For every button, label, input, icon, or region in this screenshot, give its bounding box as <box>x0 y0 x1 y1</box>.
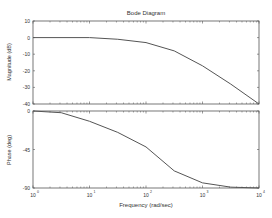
svg-text:3: 3 <box>207 190 209 194</box>
bode-diagram: Bode Diagram 100-10-20-30-40 Magnitude (… <box>0 0 272 218</box>
svg-text:-20: -20 <box>23 68 30 74</box>
svg-text:10: 10 <box>30 192 36 198</box>
svg-text:0: 0 <box>37 190 39 194</box>
phase-yticks: 0-45-90 <box>23 108 259 191</box>
svg-text:0: 0 <box>27 108 30 114</box>
svg-text:-30: -30 <box>23 84 30 90</box>
svg-text:10: 10 <box>87 192 93 198</box>
magnitude-yticks: 100-10-20-30-40 <box>23 18 259 107</box>
svg-text:-90: -90 <box>23 185 30 191</box>
magnitude-axes <box>33 21 259 104</box>
phase-ylabel: Phase (deg) <box>6 135 12 165</box>
svg-text:2: 2 <box>150 190 152 194</box>
svg-text:10: 10 <box>200 192 206 198</box>
svg-text:1: 1 <box>94 190 96 194</box>
magnitude-curve <box>33 38 259 104</box>
frequency-xlabel: Frequency (rad/sec) <box>119 202 173 208</box>
svg-text:10: 10 <box>256 192 262 198</box>
phase-curve <box>33 111 259 188</box>
svg-text:-10: -10 <box>23 51 30 57</box>
phase-axes <box>33 111 259 188</box>
chart-title: Bode Diagram <box>127 10 165 16</box>
svg-text:-45: -45 <box>23 147 30 153</box>
frequency-xticks: 100101102103104 <box>30 21 265 198</box>
svg-text:10: 10 <box>143 192 149 198</box>
svg-text:-40: -40 <box>23 101 30 107</box>
svg-text:0: 0 <box>27 35 30 41</box>
svg-text:4: 4 <box>263 190 265 194</box>
svg-text:10: 10 <box>24 18 30 24</box>
magnitude-ylabel: Magnitude (dB) <box>6 43 12 81</box>
